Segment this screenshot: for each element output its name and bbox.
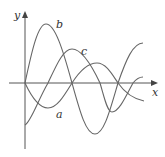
curve-b	[25, 24, 143, 134]
graph-figure: y x b c a	[0, 0, 165, 157]
curve-label-a: a	[56, 108, 63, 121]
curve-label-c: c	[81, 45, 87, 58]
curve-a	[25, 63, 144, 108]
curve-label-b: b	[56, 18, 63, 31]
curve-c	[25, 49, 143, 125]
y-axis-arrow-icon	[22, 11, 28, 18]
x-axis-label: x	[152, 86, 159, 99]
y-axis-label: y	[13, 9, 21, 22]
